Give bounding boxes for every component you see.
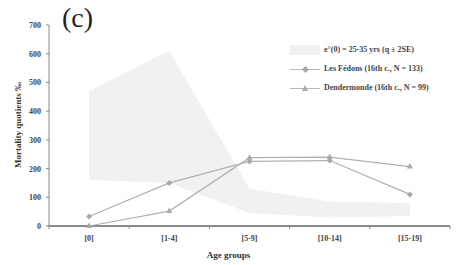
legend-item-dendermonde: Dendermonde (16th c., N = 99) [290, 78, 429, 97]
x-tick-label: [5-9] [242, 234, 258, 243]
diamond-marker-icon [86, 214, 92, 220]
x-tick-label: [1-4] [161, 234, 177, 243]
band-swatch-icon [290, 45, 320, 55]
legend-label: Dendermonde (16th c., N = 99) [324, 83, 429, 92]
y-tick-label: 300 [29, 136, 41, 145]
y-tick-label: 400 [29, 107, 41, 116]
triangle-marker-icon [302, 85, 308, 91]
y-tick-label: 700 [29, 21, 41, 30]
legend: e°(0) = 25-35 yrs (q ± 2SE) Les Fédons (… [290, 40, 429, 97]
y-tick-label: 500 [29, 78, 41, 87]
diamond-marker-icon [407, 191, 413, 197]
triangle-marker-icon [247, 154, 253, 160]
y-axis-label: Mortality quotients ‰ [13, 55, 23, 195]
legend-item-les-fedons: Les Fédons (16th c., N = 133) [290, 59, 429, 78]
y-tick-label: 100 [29, 193, 41, 202]
x-axis-label: Age groups [0, 250, 457, 260]
legend-label: Les Fédons (16th c., N = 133) [324, 64, 423, 73]
x-tick-label: [15-19] [398, 234, 422, 243]
triangle-marker-icon [327, 154, 333, 160]
diamond-marker-icon [302, 65, 309, 72]
y-tick-label: 600 [29, 50, 41, 59]
legend-item-band: e°(0) = 25-35 yrs (q ± 2SE) [290, 40, 429, 59]
panel-label: (c) [62, 2, 93, 34]
legend-label: e°(0) = 25-35 yrs (q ± 2SE) [324, 45, 414, 54]
x-tick-label: [0] [84, 234, 94, 243]
x-tick-label: [10-14] [318, 234, 342, 243]
y-tick-label: 0 [37, 222, 41, 231]
y-tick-label: 200 [29, 165, 41, 174]
